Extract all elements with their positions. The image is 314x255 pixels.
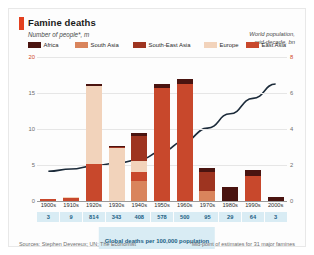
bar-segment-south-asia (131, 181, 147, 201)
x-tick-label-2000s: 2000s (264, 202, 288, 208)
deaths-per-100k-cell-1910s: 9 (60, 212, 82, 222)
footnote: *Mid-point of estimates for 31 major fam… (190, 241, 295, 247)
legend-item-south-east-asia[interactable]: South-East Asia (133, 42, 190, 48)
deaths-per-100k-cell-1940s: 408 (128, 212, 150, 222)
bar-segment-east-asia (245, 176, 261, 201)
bar-1950s[interactable] (154, 84, 170, 201)
y-tick-right: 8 (290, 54, 300, 60)
bar-segment-east-asia (177, 84, 193, 201)
y-tick-right: 2 (290, 162, 300, 168)
bar-1970s[interactable] (199, 168, 215, 201)
x-tick-label-1920s: 1920s (82, 202, 106, 208)
bar-segment-africa (268, 197, 284, 201)
legend-item-east-asia[interactable]: East Asia (246, 42, 286, 48)
deaths-per-100k-value: 408 (135, 214, 145, 220)
x-tick-label-1990s: 1990s (241, 202, 265, 208)
y-tick-left: 15 (26, 90, 35, 96)
bar-2000s[interactable] (268, 197, 284, 201)
deaths-per-100k-value: 814 (89, 214, 99, 220)
bar-segment-europe (63, 197, 79, 198)
deaths-per-100k-value: 3 (274, 214, 277, 220)
legend-swatch-icon (204, 42, 217, 48)
y-tick-right: 6 (290, 90, 300, 96)
bar-segment-africa (86, 84, 102, 85)
y-axis-subtitle: Number of people*, m (28, 31, 89, 38)
deaths-per-100k-row: 398143434085785009529643 (37, 212, 287, 223)
bar-1990s[interactable] (245, 170, 261, 201)
bar-segment-east-asia (131, 172, 147, 181)
deaths-per-100k-value: 578 (157, 214, 167, 220)
bar-segment-east-asia (40, 199, 56, 201)
bar-segment-europe (86, 86, 102, 164)
bar-segment-africa (245, 170, 261, 176)
legend-label: South Asia (91, 42, 119, 48)
legend: AfricaSouth AsiaSouth-East AsiaEuropeEas… (28, 42, 288, 51)
legend-item-africa[interactable]: Africa (28, 42, 59, 48)
bar-1940s[interactable] (131, 133, 147, 201)
bar-segment-south-east-asia (199, 172, 215, 191)
y-tick-left: 5 (26, 162, 35, 168)
deaths-per-100k-cell-2000s: 3 (265, 212, 287, 222)
legend-item-europe[interactable]: Europe (204, 42, 239, 48)
x-tick-label-1980s: 1980s (218, 202, 242, 208)
bar-segment-europe (131, 161, 147, 173)
bar-segment-africa (222, 187, 238, 201)
legend-swatch-icon (75, 42, 88, 48)
bar-1960s[interactable] (177, 79, 193, 201)
bar-segment-africa (131, 133, 147, 137)
y-tick-right: 4 (290, 126, 300, 132)
bar-segment-east-asia (63, 198, 79, 201)
deaths-per-100k-cell-1980s: 29 (219, 212, 241, 222)
x-tick-label-1910s: 1910s (59, 202, 83, 208)
legend-item-south-asia[interactable]: South Asia (75, 42, 119, 48)
bar-segment-east-asia (154, 88, 170, 201)
legend-label: East Asia (262, 42, 287, 48)
bar-segment-africa (177, 79, 193, 83)
bar-segment-south-asia (199, 191, 215, 201)
x-tick-label-1970s: 1970s (195, 202, 219, 208)
legend-label: Africa (44, 42, 59, 48)
deaths-per-100k-value: 9 (69, 214, 72, 220)
bar-1930s[interactable] (109, 146, 125, 201)
chart-panel: Famine deaths Number of people*, m World… (8, 8, 306, 247)
legend-swatch-icon (133, 42, 146, 48)
deaths-per-100k-value: 500 (180, 214, 190, 220)
deaths-per-100k-value: 29 (227, 214, 233, 220)
bar-1980s[interactable] (222, 187, 238, 201)
chart-title: Famine deaths (28, 17, 96, 28)
bar-segment-east-asia (86, 164, 102, 201)
x-tick-label-1950s: 1950s (150, 202, 174, 208)
right-axis-label-line-0: World population, (203, 31, 295, 39)
deaths-per-100k-value: 95 (204, 214, 210, 220)
deaths-per-100k-cell-1990s: 64 (242, 212, 264, 222)
bar-segment-africa (199, 168, 215, 172)
deaths-per-100k-value: 3 (47, 214, 50, 220)
y-tick-left: 20 (26, 54, 35, 60)
legend-label: Europe (220, 42, 239, 48)
y-tick-left: 10 (26, 126, 35, 132)
bar-1900s[interactable] (40, 199, 56, 201)
y-tick-right: 0 (290, 198, 300, 204)
x-tick-label-1930s: 1930s (105, 202, 129, 208)
plot-area: 0510152002468 (37, 57, 287, 201)
legend-label: South-East Asia (149, 42, 191, 48)
gridline (37, 57, 287, 58)
bar-segment-africa (109, 146, 125, 147)
deaths-per-100k-cell-1970s: 95 (196, 212, 218, 222)
legend-swatch-icon (246, 42, 259, 48)
deaths-per-100k-cell-1900s: 3 (37, 212, 59, 222)
bar-segment-south-east-asia (131, 136, 147, 160)
x-tick-label-1940s: 1940s (127, 202, 151, 208)
deaths-per-100k-cell-1930s: 343 (106, 212, 128, 222)
bar-1920s[interactable] (86, 84, 102, 201)
bar-1910s[interactable] (63, 197, 79, 201)
source-note: Sources: Stephen Devereux; UN; The Econo… (19, 241, 136, 247)
deaths-per-100k-cell-1950s: 578 (151, 212, 173, 222)
famine-deaths-chart-card: Famine deaths Number of people*, m World… (0, 0, 314, 255)
x-tick-label-1900s: 1900s (36, 202, 60, 208)
accent-kicker-bar (19, 17, 24, 30)
deaths-per-100k-cell-1960s: 500 (174, 212, 196, 222)
bar-segment-africa (154, 84, 170, 88)
legend-swatch-icon (28, 42, 41, 48)
bar-segment-south-east-asia (109, 147, 125, 148)
